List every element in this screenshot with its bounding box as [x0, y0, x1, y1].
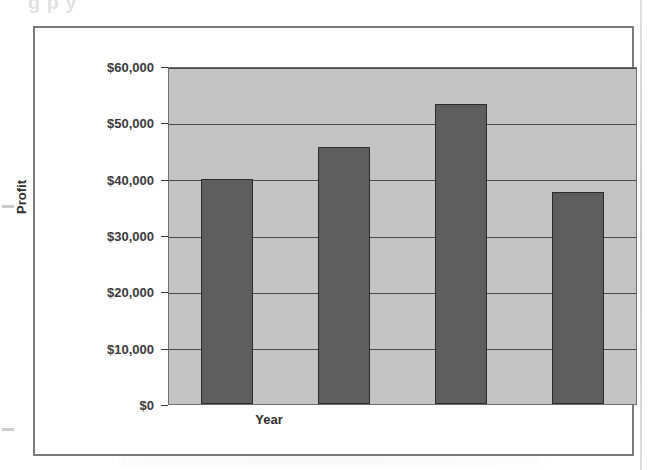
- scan-artifact-dash-left-lower: [2, 428, 14, 431]
- plot-area: [168, 67, 637, 405]
- bar-slot: [403, 68, 520, 404]
- bar-series-profit: [169, 68, 636, 404]
- cut-off-heading-text: g p y: [28, 0, 77, 14]
- bar-slot: [286, 68, 403, 404]
- scan-artifact-right-edge-line: [640, 0, 642, 470]
- bar-2007: [318, 147, 370, 404]
- bar-slot: [169, 68, 286, 404]
- y-axis-title: Profit: [14, 180, 29, 214]
- y-axis-tick-mark: [161, 67, 168, 68]
- chart-container: Profit Year $0$10,000$20,000$30,000$40,0…: [33, 26, 634, 456]
- y-axis-tick-label: $60,000: [62, 60, 154, 75]
- y-axis-tick-label: $30,000: [62, 229, 154, 244]
- y-axis-tick-label: $10,000: [62, 341, 154, 356]
- y-axis-tick-label: $40,000: [62, 172, 154, 187]
- bar-2009: [552, 192, 604, 404]
- y-axis-tick-mark: [161, 236, 168, 237]
- y-axis-tick-mark: [161, 405, 168, 406]
- y-axis-tick-mark: [161, 292, 168, 293]
- y-axis-tick-mark: [161, 180, 168, 181]
- bar-2006: [201, 179, 253, 404]
- y-axis-tick-mark: [161, 123, 168, 124]
- y-axis-tick-label: $0: [62, 398, 154, 413]
- y-axis-tick-mark: [161, 349, 168, 350]
- bar-2008: [435, 104, 487, 404]
- bar-slot: [519, 68, 636, 404]
- y-axis-tick-label: $50,000: [62, 116, 154, 131]
- scan-artifact-dash-left-upper: [2, 205, 14, 208]
- y-axis-tick-label: $20,000: [62, 285, 154, 300]
- x-axis-title: Year: [255, 412, 282, 427]
